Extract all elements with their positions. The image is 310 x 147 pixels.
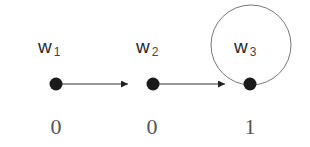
world-label-w3: w3 [233,36,257,59]
value-label-w3: 1 [245,114,256,139]
node-w2 [147,78,160,91]
kripke-diagram: w1 w2 w3 0 0 1 [0,0,310,147]
world-label-w1: w1 [37,36,61,59]
node-w3 [244,78,257,91]
node-w1 [50,78,63,91]
world-label-w2: w2 [135,36,159,59]
value-label-w1: 0 [51,114,62,139]
value-label-w2: 0 [147,114,158,139]
